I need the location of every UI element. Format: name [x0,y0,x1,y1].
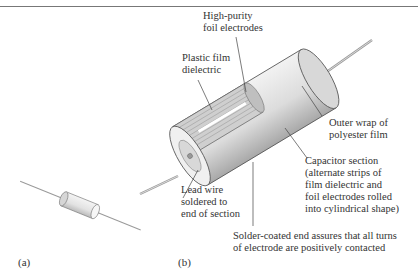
label-line: soldered to [181,196,240,208]
label-line: of electrode are positively contacted [233,242,397,254]
label-high-purity-foil-electrodes: High-purity foil electrodes [203,10,263,34]
label-line: foil electrodes rolled [305,191,399,203]
label-outer-wrap: Outer wrap of polyester film [329,117,388,141]
label-lead-wire: Lead wire soldered to end of section [181,184,240,220]
label-line: end of section [181,208,240,220]
label-line: High-purity [203,10,263,22]
label-line: Capacitor section [305,155,399,167]
label-line: dielectric [182,64,230,76]
panel-label-a: (a) [18,256,30,268]
label-line: into cylindrical shape) [305,203,399,215]
small-capacitor-a [17,174,143,237]
label-line: Plastic film [182,52,230,64]
label-line: (alternate strips of [305,167,399,179]
label-line: Solder-coated end assures that all turns [233,230,397,242]
label-plastic-film-dielectric: Plastic film dielectric [182,52,230,76]
label-line: Lead wire [181,184,240,196]
label-line: foil electrodes [203,22,263,34]
label-line: Outer wrap of [329,117,388,129]
label-solder-coated-end: Solder-coated end assures that all turns… [233,230,397,254]
label-line: film dielectric and [305,179,399,191]
label-capacitor-section: Capacitor section (alternate strips of f… [305,155,399,215]
label-line: polyester film [329,129,388,141]
panel-label-b: (b) [178,256,191,268]
